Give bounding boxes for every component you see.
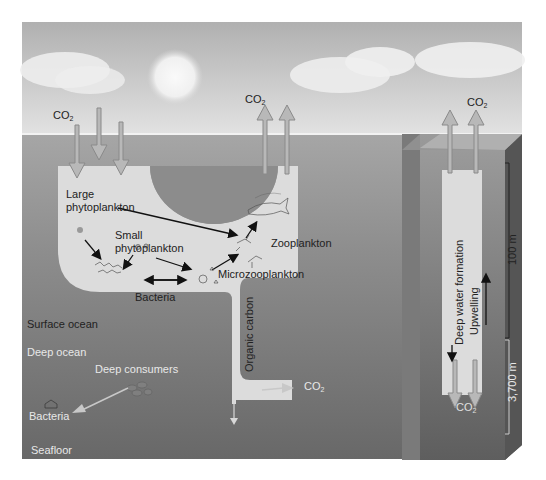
label-bacteria-deep: Bacteria [29,410,69,422]
label-large-phytoplankton-1: Large [66,188,94,200]
cloud-icon [415,42,525,78]
co2-label-outgas: CO2 [245,93,265,109]
sun-icon [147,49,203,105]
large-phytoplankton-icon [77,227,83,233]
co2-label-influx: CO2 [53,109,73,125]
co2-label-column-top: CO2 [467,96,487,112]
label-scale-100m: 100 m [506,234,518,265]
label-deep-ocean: Deep ocean [27,346,86,358]
co2-label-deep-outflow: CO2 [304,380,324,396]
label-upwelling: Upwelling [468,287,480,335]
label-surface-ocean: Surface ocean [27,318,98,330]
label-large-phytoplankton-2: phytoplankton [66,201,135,213]
co2-label-column-bottom: CO2 [456,401,476,417]
label-microzooplankton: Microzooplankton [218,268,304,280]
label-deep-consumers: Deep consumers [95,363,178,375]
label-organic-carbon: Organic carbon [243,297,255,372]
label-seafloor: Seafloor [31,444,72,456]
label-zooplankton: Zooplankton [271,237,332,249]
label-scale-3700m: 3,700 m [506,362,518,402]
label-small-phytoplankton-2: phytoplankton [115,242,184,254]
label-deep-water-formation: Deep water formation [453,240,465,345]
label-bacteria-surface: Bacteria [135,291,175,303]
label-small-phytoplankton-1: Small [115,229,143,241]
